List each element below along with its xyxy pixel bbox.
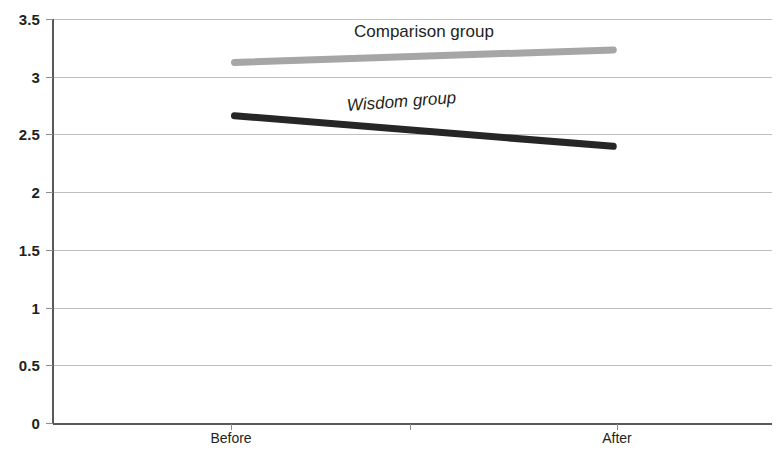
y-tick-label: 3 — [32, 68, 40, 85]
y-tick-mark — [46, 134, 53, 135]
x-tick-mark — [410, 424, 411, 430]
gridline — [53, 365, 772, 366]
y-tick-label: 1.5 — [19, 241, 40, 258]
plot-area — [53, 19, 772, 423]
gridline — [53, 250, 772, 251]
x-tick-label-after: After — [602, 430, 632, 446]
x-axis-baseline — [53, 423, 772, 425]
y-tick-mark — [46, 192, 53, 193]
series-label-comparison: Comparison group — [354, 22, 494, 42]
y-tick-mark — [46, 77, 53, 78]
x-tick-label-before: Before — [210, 430, 251, 446]
gridline — [53, 134, 772, 135]
gridline — [53, 308, 772, 309]
y-tick-label: 0 — [32, 415, 40, 432]
gridline — [53, 77, 772, 78]
y-tick-mark — [46, 250, 53, 251]
y-tick-mark — [46, 308, 53, 309]
y-tick-label: 1 — [32, 299, 40, 316]
line-chart: 00.511.522.533.5 BeforeAfter Comparison … — [0, 0, 783, 450]
y-axis-line — [52, 19, 54, 424]
gridline — [53, 19, 772, 20]
y-tick-label: 2 — [32, 184, 40, 201]
y-tick-mark — [46, 365, 53, 366]
y-tick-mark — [46, 423, 53, 424]
y-tick-mark — [46, 19, 53, 20]
gridline — [53, 192, 772, 193]
y-tick-label: 2.5 — [19, 126, 40, 143]
y-tick-label: 3.5 — [19, 11, 40, 28]
y-tick-label: 0.5 — [19, 357, 40, 374]
